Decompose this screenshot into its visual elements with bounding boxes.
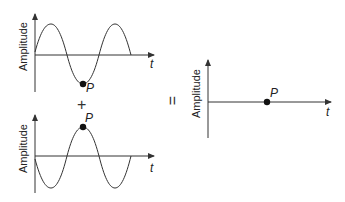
graph-wave-1: P t Amplitude bbox=[17, 14, 154, 95]
x-axis-label: t bbox=[326, 105, 330, 119]
superposition-diagram: P t Amplitude + P t Amplitude = P t Ampl… bbox=[0, 0, 345, 202]
x-axis-label: t bbox=[150, 57, 154, 71]
equals-sign: = bbox=[164, 96, 181, 105]
x-axis-label: t bbox=[150, 161, 154, 175]
point-p-label: P bbox=[86, 81, 94, 95]
sine-wave bbox=[35, 127, 131, 188]
y-axis-label: Amplitude bbox=[190, 69, 202, 118]
y-axis-label: Amplitude bbox=[17, 22, 29, 71]
graph-wave-2: P t Amplitude bbox=[17, 111, 154, 193]
graph-result: P t Amplitude bbox=[190, 60, 331, 138]
y-axis-label: Amplitude bbox=[17, 124, 29, 173]
point-p-label: P bbox=[85, 111, 93, 125]
point-p-label: P bbox=[270, 86, 278, 100]
sine-wave bbox=[35, 24, 131, 84]
